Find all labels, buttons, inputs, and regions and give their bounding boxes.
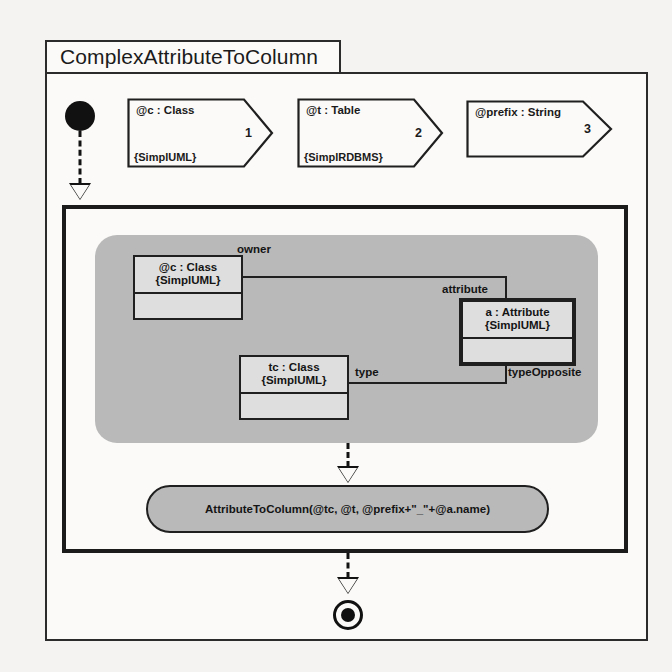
method-call-text: AttributeToColumn(@tc, @t, @prefix+"_"+@… [205, 503, 490, 515]
parameter-pin-1-stereotype: {SimplUML} [134, 151, 196, 163]
object-node-tc-header: tc : Class {SimplUML} [241, 357, 347, 392]
parameter-pin-1-index: 1 [245, 126, 252, 140]
object-node-a[interactable]: a : Attribute {SimplUML} [459, 298, 576, 366]
link-label-attribute: attribute [442, 283, 488, 295]
object-node-a-header: a : Attribute {SimplUML} [463, 302, 572, 337]
object-node-c-attributes-compartment [135, 292, 241, 309]
link-owner-horizontal [243, 276, 507, 278]
object-node-c-stereotype: {SimplUML} [139, 274, 237, 287]
diagram-canvas: ComplexAttributeToColumn @c : Class {Sim… [0, 0, 672, 672]
link-label-owner: owner [237, 243, 271, 255]
object-node-tc[interactable]: tc : Class {SimplUML} [239, 355, 349, 420]
initial-node [65, 101, 95, 131]
parameter-pin-3-index: 3 [584, 122, 591, 136]
object-node-tc-stereotype: {SimplUML} [245, 374, 343, 387]
link-type-horizontal [349, 382, 507, 384]
flow-initial-to-story [70, 131, 90, 205]
parameter-pin-2-name: @t : Table [306, 104, 360, 116]
page-title: ComplexAttributeToColumn [60, 45, 318, 69]
object-node-c[interactable]: @c : Class {SimplUML} [133, 255, 243, 320]
link-label-typeopposite: typeOpposite [508, 366, 581, 378]
parameter-pin-1[interactable]: @c : Class {SimplUML} 1 [127, 98, 274, 168]
final-node [333, 600, 363, 630]
object-node-a-name: a : Attribute [467, 306, 568, 319]
parameter-pin-2-index: 2 [415, 126, 422, 140]
link-attribute-vertical [505, 276, 507, 300]
object-node-tc-name: tc : Class [245, 361, 343, 374]
flow-story-to-final [338, 553, 358, 600]
link-label-type: type [355, 366, 379, 378]
parameter-pin-3-name: @prefix : String [475, 106, 561, 118]
object-node-a-attributes-compartment [463, 337, 572, 354]
parameter-pin-2[interactable]: @t : Table {SimplRDBMS} 2 [297, 98, 444, 168]
activity-name-tab[interactable]: ComplexAttributeToColumn [45, 40, 341, 74]
object-node-c-header: @c : Class {SimplUML} [135, 257, 241, 292]
parameter-pin-3[interactable]: @prefix : String 3 [466, 100, 613, 158]
flow-pattern-to-call [338, 443, 358, 487]
parameter-pin-2-stereotype: {SimplRDBMS} [304, 151, 383, 163]
method-call-node[interactable]: AttributeToColumn(@tc, @t, @prefix+"_"+@… [146, 485, 549, 533]
object-node-c-name: @c : Class [139, 261, 237, 274]
object-node-tc-attributes-compartment [241, 392, 347, 409]
object-node-a-stereotype: {SimplUML} [467, 319, 568, 332]
parameter-pin-1-name: @c : Class [136, 104, 195, 116]
